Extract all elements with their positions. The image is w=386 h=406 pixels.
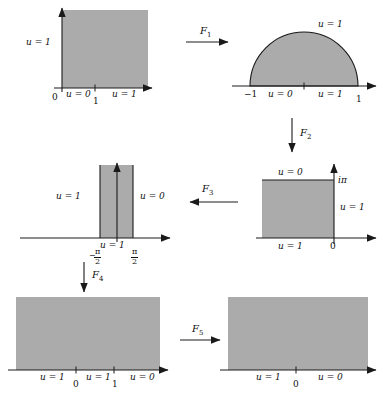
- panel-1-label-bottom-mid: u = 0: [66, 90, 91, 99]
- map-f1-index: 1: [207, 31, 211, 39]
- panel-4-label-left: u = 1: [56, 192, 81, 201]
- panel-5-graphic: [8, 297, 168, 374]
- map-f1-letter: F: [200, 25, 207, 36]
- map-f5-label: F5: [192, 324, 203, 337]
- map-f4-letter: F: [92, 269, 99, 280]
- panel-4-tick-pi-over-2: π 2: [131, 248, 138, 266]
- map-f3-letter: F: [202, 183, 209, 194]
- map-f4-label: F4: [92, 270, 103, 283]
- panel-3-label-ipi: iπ: [338, 176, 347, 185]
- map-f2-letter: F: [300, 127, 307, 138]
- panel-2-label-axis-right: u = 1: [318, 90, 343, 99]
- panel-4-label-right: u = 0: [140, 192, 165, 201]
- panel-6-label-left: u = 1: [256, 373, 281, 382]
- panel-3-label-right: u = 1: [340, 203, 365, 212]
- panel-2-region: [250, 32, 358, 86]
- panel-1-label-tick-1: 1: [93, 97, 99, 106]
- map-f2-index: 2: [307, 133, 311, 141]
- conformal-mapping-figure: u = 1 0 u = 0 1 u = 1 u = 1 −1 u = 0 u =…: [0, 0, 386, 406]
- panel-5-label-mid: u = 1: [86, 373, 111, 382]
- panel-2-label-tick-minus1: −1: [244, 90, 257, 99]
- panel-4-label-bottom: u = 1: [100, 241, 125, 250]
- panel-3-region: [262, 180, 334, 238]
- panel-5-label-right: u = 0: [130, 373, 155, 382]
- panel-4-tick-right-den: 2: [131, 258, 138, 266]
- panel-1-label-tick-0: 0: [52, 93, 58, 102]
- panel-4-tick-minus-sign: −: [89, 252, 96, 260]
- panel-5-label-tick-0: 0: [73, 380, 79, 389]
- panel-1-graphic: [54, 8, 152, 92]
- panel-5-label-left: u = 1: [40, 373, 65, 382]
- figure-vector-layer: [0, 0, 386, 406]
- panel-5-label-tick-1: 1: [112, 380, 118, 389]
- panel-4-graphic: [20, 163, 170, 242]
- panel-2-label-tick-1: 1: [356, 95, 362, 104]
- panel-2-graphic: [232, 32, 376, 90]
- panel-2-label-arc: u = 1: [318, 20, 343, 29]
- map-f2-label: F2: [300, 128, 311, 141]
- panel-4-tick-right-num: π: [131, 248, 138, 256]
- panel-1-region: [62, 10, 148, 88]
- map-f5-letter: F: [192, 323, 199, 334]
- panel-5-region: [16, 297, 160, 370]
- panel-3-label-origin: 0: [330, 242, 336, 251]
- panel-1-label-bottom-right: u = 1: [112, 90, 137, 99]
- panel-4-tick-minus-pi-over-2: − π 2: [94, 248, 101, 266]
- panel-2-label-axis-mid: u = 0: [268, 90, 293, 99]
- panel-3-label-top: u = 0: [278, 168, 303, 177]
- panel-6-region: [228, 297, 368, 370]
- panel-3-label-bottom: u = 1: [278, 242, 303, 251]
- map-f1-label: F1: [200, 26, 211, 39]
- map-f3-label: F3: [202, 184, 213, 197]
- panel-1-label-left: u = 1: [26, 38, 51, 47]
- panel-6-label-tick-0: 0: [293, 380, 299, 389]
- panel-6-graphic: [220, 297, 376, 374]
- map-f3-index: 3: [209, 189, 213, 197]
- map-f5-index: 5: [199, 329, 203, 337]
- map-f4-index: 4: [99, 275, 103, 283]
- panel-6-label-right: u = 0: [318, 373, 343, 382]
